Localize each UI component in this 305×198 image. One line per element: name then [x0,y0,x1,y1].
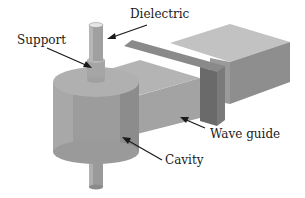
cavity-waveguide-diagram [0,0,305,198]
support-arrow [47,48,88,66]
cavity-label: Cavity [165,154,204,166]
support-label: Support [17,34,66,46]
dielectric-arrow [110,25,147,38]
wave-guide-label: Wave guide [210,128,280,140]
dielectric-label: Dielectric [130,8,189,20]
support-and-dielectric-rod [87,23,105,84]
